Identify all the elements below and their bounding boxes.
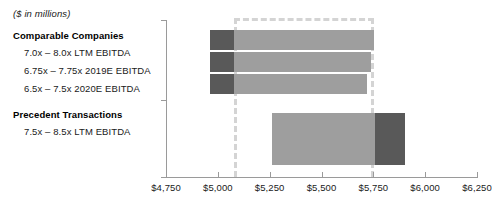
- x-axis-label: $5,250: [255, 182, 285, 193]
- valuation-range-bar[interactable]: [210, 52, 372, 72]
- group-line-2019e-ebitda: 6.75x – 7.75x 2019E EBITDA: [24, 65, 151, 76]
- x-axis-tick: [166, 172, 167, 178]
- bar-dark-segment: [210, 74, 235, 94]
- reference-range-box: [234, 18, 374, 177]
- group-line-2020e-ebitda: 6.5x – 7.5x 2020E EBITDA: [24, 83, 140, 94]
- x-axis-tick: [270, 172, 271, 178]
- x-axis-label: $4,750: [151, 182, 181, 193]
- bar-dark-segment: [210, 52, 235, 72]
- y-axis-line: [166, 20, 167, 177]
- x-axis-tick: [477, 172, 478, 178]
- x-axis-label: $6,000: [410, 182, 440, 193]
- x-axis-label: $5,000: [203, 182, 233, 193]
- bar-dark-segment: [375, 113, 405, 165]
- x-axis-label: $5,500: [307, 182, 337, 193]
- valuation-range-bar[interactable]: [210, 30, 375, 50]
- group-heading-comparable-companies: Comparable Companies: [13, 30, 124, 41]
- x-axis-label: $6,250: [462, 182, 492, 193]
- x-axis-label: $5,750: [358, 182, 388, 193]
- group-line-ltm-ebitda: 7.0x – 8.0x LTM EBITDA: [24, 47, 131, 58]
- valuation-range-bar[interactable]: [272, 113, 406, 165]
- x-axis-tick: [218, 172, 219, 178]
- bar-dark-segment: [210, 30, 235, 50]
- y-axis-tick-top: [161, 20, 167, 21]
- y-axis-tick-mid: [161, 100, 167, 101]
- x-axis-tick: [425, 172, 426, 178]
- x-axis-tick: [373, 172, 374, 178]
- group-heading-precedent-transactions: Precedent Transactions: [13, 109, 122, 120]
- x-axis-line: [166, 177, 477, 178]
- x-axis-tick: [322, 172, 323, 178]
- y-axis-tick-bottom: [161, 177, 167, 178]
- valuation-range-bar[interactable]: [210, 74, 368, 94]
- units-note: ($ in millions): [13, 8, 70, 19]
- group-line-precedent-ltm-ebitda: 7.5x – 8.5x LTM EBITDA: [24, 126, 131, 137]
